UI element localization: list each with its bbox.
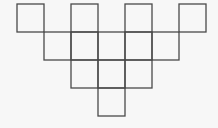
grid-square bbox=[125, 32, 152, 60]
square-grid-diagram bbox=[0, 0, 218, 128]
grid-square bbox=[17, 4, 44, 32]
grid-square bbox=[71, 4, 98, 32]
grid-square bbox=[125, 60, 152, 88]
grid-square bbox=[125, 4, 152, 32]
grid-square bbox=[98, 88, 125, 116]
grid-square bbox=[71, 32, 98, 60]
grid-square bbox=[71, 60, 98, 88]
grid-square bbox=[152, 32, 179, 60]
grid-square bbox=[98, 32, 125, 60]
grid-square bbox=[98, 60, 125, 88]
grid-square bbox=[44, 32, 71, 60]
grid-square bbox=[179, 4, 206, 32]
